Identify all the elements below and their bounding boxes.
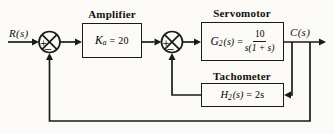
fraction-numerator: 10 — [253, 29, 267, 42]
tachometer-formula: H2(s)= 2s — [220, 89, 264, 102]
formula-fraction: 10 s(1 + s) — [245, 29, 275, 54]
fraction-denominator: s(1 + s) — [245, 42, 275, 54]
input-signal-line — [8, 39, 39, 46]
amplifier-title: Amplifier — [72, 8, 152, 20]
formula-subscript: a — [103, 39, 107, 47]
formula-argument: (s) — [233, 90, 244, 100]
output-signal-line — [284, 39, 326, 46]
tachometer-title: Tachometer — [192, 70, 292, 82]
servomotor-formula: G2(s)= 10 s(1 + s) — [211, 29, 275, 54]
block-diagram: R(s) C(s) + − + − Amplifier Ka= 20 Servo… — [0, 0, 334, 134]
formula-value: = 20 — [110, 36, 129, 46]
input-signal-label: R(s) — [9, 27, 29, 39]
amplifier-block: Ka= 20 — [82, 23, 142, 58]
junction1-to-amplifier-line — [60, 39, 82, 46]
formula-equals: = — [237, 37, 243, 47]
formula-argument: (s) — [224, 37, 235, 47]
formula-subscript: 2 — [228, 94, 232, 102]
servomotor-block: G2(s)= 10 s(1 + s) — [201, 22, 284, 61]
tachometer-block: H2(s)= 2s — [201, 83, 284, 107]
formula-value: = 2s — [246, 90, 264, 100]
servomotor-title: Servomotor — [192, 7, 292, 19]
formula-symbol: H — [220, 90, 228, 101]
junction1-minus-sign: − — [44, 45, 52, 55]
junction2-minus-sign: − — [166, 45, 174, 55]
wiring-layer — [0, 0, 334, 134]
formula-symbol: G — [211, 36, 219, 48]
junction2-to-servomotor-line — [183, 39, 202, 46]
formula-symbol: K — [95, 35, 103, 47]
amplifier-formula: Ka= 20 — [95, 34, 129, 47]
formula-subscript: 2 — [219, 40, 223, 48]
output-signal-label: C(s) — [290, 26, 310, 38]
amplifier-to-junction2-line — [142, 39, 162, 46]
